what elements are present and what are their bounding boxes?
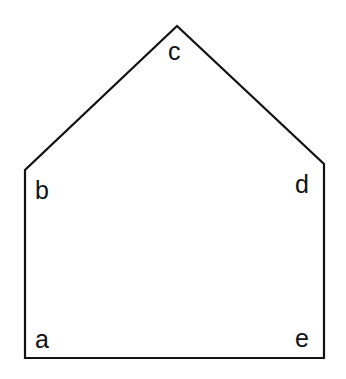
vertex-label-e: e bbox=[295, 324, 309, 352]
vertex-label-d: d bbox=[295, 170, 309, 198]
pentagon-outline bbox=[25, 26, 324, 358]
vertex-label-a: a bbox=[35, 325, 49, 353]
vertex-label-c: c bbox=[168, 37, 181, 65]
vertex-label-b: b bbox=[35, 176, 49, 204]
pentagon-diagram: c b d a e bbox=[0, 0, 346, 379]
